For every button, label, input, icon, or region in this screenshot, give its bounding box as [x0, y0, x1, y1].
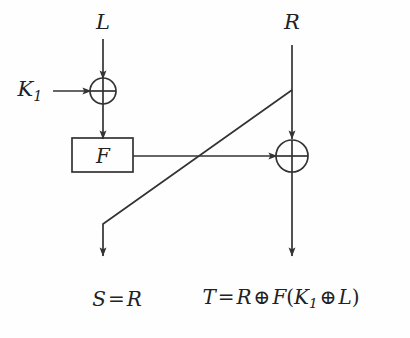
feistel-round-diagram: L R K1 F S=R T=R⊕F(K1⊕L)	[0, 0, 410, 338]
function-box-label: F	[96, 146, 110, 166]
key-label-subscript: 1	[33, 88, 42, 104]
output-left-expr: R	[127, 287, 142, 311]
output-right-close-paren: )	[352, 285, 360, 309]
output-label-left: S=R	[92, 289, 142, 309]
output-right-key: K	[294, 285, 309, 309]
input-label-left: L	[96, 12, 110, 33]
key-label-base: K	[18, 77, 34, 101]
output-label-right: T=R⊕F(K1⊕L)	[202, 287, 359, 311]
output-right-operand1: R	[237, 285, 252, 309]
output-left-equals: =	[106, 287, 127, 311]
xor-gate-right	[276, 140, 308, 172]
input-label-right: R	[284, 12, 300, 33]
edge-R-crossover-to-S	[103, 90, 292, 256]
output-right-open-paren: (	[286, 285, 294, 309]
output-right-equals: =	[216, 285, 237, 309]
xor-gate-left	[90, 78, 116, 104]
output-right-xor2: ⊕	[318, 285, 339, 309]
output-right-operand2: L	[338, 285, 351, 309]
output-right-name: T	[202, 285, 215, 309]
output-right-key-subscript: 1	[309, 295, 318, 311]
output-right-func: F	[272, 285, 286, 309]
key-label: K1	[18, 79, 43, 103]
output-left-name: S	[92, 287, 106, 311]
output-right-xor1: ⊕	[252, 285, 273, 309]
